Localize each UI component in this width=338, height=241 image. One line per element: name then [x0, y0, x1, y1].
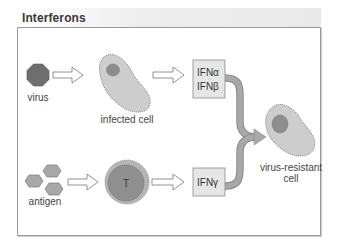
ifn-beta-label: IFNβ [197, 81, 219, 92]
arrow-virus-to-infected-cell [53, 67, 83, 83]
t-cell-label: T [123, 178, 129, 189]
arrow-infected-cell-to-ifn-ab [153, 67, 184, 83]
arrow-t-cell-to-ifn-gamma [152, 174, 184, 190]
virus-resistant-cell-icon [266, 104, 315, 156]
infected-cell-label: infected cell [101, 114, 154, 125]
infected-cell-icon [100, 54, 151, 112]
antigen-label: antigen [29, 196, 62, 207]
diagram-canvas: virus infected cell IFNα IFNβ virus-resi… [0, 0, 338, 241]
ifn-alpha-label: IFNα [197, 67, 219, 78]
antigen-icon [25, 165, 63, 195]
resistant-cell-label-line2: cell [283, 173, 298, 184]
ifn-gamma-box: IFNγ [193, 168, 225, 196]
resistant-cell-label-line1: virus-resistant [260, 162, 322, 173]
virus-icon [27, 64, 49, 86]
arrow-antigen-to-t-cell [68, 174, 98, 190]
virus-label: virus [27, 92, 48, 103]
ifn-gamma-label: IFNγ [197, 177, 218, 188]
ifn-alpha-beta-box: IFNα IFNβ [193, 60, 225, 98]
t-cell-icon: T [105, 160, 149, 204]
